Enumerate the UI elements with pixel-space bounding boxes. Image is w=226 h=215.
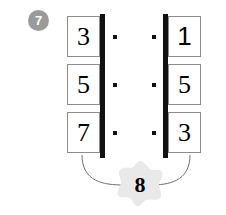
answer-star[interactable]: 8 — [116, 160, 164, 207]
answer-star-value: 8 — [116, 160, 164, 207]
connector-curves — [0, 0, 226, 215]
worksheet-canvas: 7 3 5 7 1 5 3 8 — [0, 0, 226, 215]
